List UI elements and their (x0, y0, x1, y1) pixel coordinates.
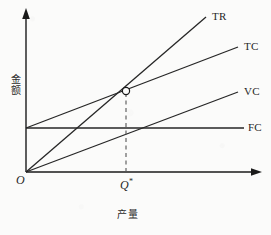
chart-canvas (0, 0, 271, 235)
q-star-superscript: * (129, 177, 133, 186)
y-axis-title: 金额 (7, 74, 22, 96)
series-label-vc: VC (244, 85, 260, 97)
series-line-tr (26, 17, 206, 172)
y-axis (22, 8, 30, 172)
series-label-tr: TR (212, 10, 226, 22)
break-even-marker (122, 87, 129, 94)
q-star-base: Q (120, 178, 129, 192)
cost-revenue-chart: TR TC VC FC O Q* 产量 金额 (0, 0, 271, 235)
x-tick-label-q-star: Q* (120, 177, 133, 193)
x-axis-title: 产量 (117, 206, 139, 221)
origin-label: O (16, 173, 25, 188)
series-label-tc: TC (244, 40, 258, 52)
series-line-vc (26, 92, 238, 172)
series-label-fc: FC (248, 121, 262, 133)
series-line-tc (26, 47, 238, 128)
x-axis (26, 168, 262, 176)
